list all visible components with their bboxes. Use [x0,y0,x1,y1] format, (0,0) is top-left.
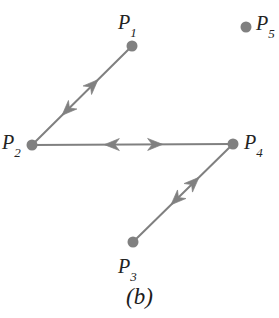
node-label-p4: P4 [244,132,263,156]
node-label-p5: P5 [256,13,275,37]
node-label-base: P [118,255,130,277]
node-p1[interactable] [127,41,138,52]
edges-layer [32,46,233,242]
node-label-base: P [244,131,256,153]
edge-P2-P1 [32,46,132,145]
node-p3[interactable] [128,237,139,248]
nodes-layer [27,22,252,248]
node-p2[interactable] [27,140,38,151]
node-label-subscript: 2 [14,145,21,160]
node-p5[interactable] [241,22,252,33]
node-p4[interactable] [228,139,239,150]
figure-caption: (b) [0,285,279,308]
node-label-base: P [2,131,14,153]
node-label-base: P [118,11,130,33]
edge-P3-P4 [133,144,233,242]
node-label-p3: P3 [118,256,137,280]
node-label-p1: P1 [118,12,137,36]
graph-canvas [0,0,279,318]
node-label-p2: P2 [2,132,21,156]
node-label-subscript: 1 [130,25,137,40]
arrowheads-layer [62,80,199,205]
node-label-subscript: 3 [130,269,137,284]
node-label-base: P [256,12,268,34]
edge-P2-P4 [32,144,233,145]
node-label-subscript: 5 [268,26,275,41]
figure-container: P1P2P3P4P5 (b) [0,0,279,318]
node-label-subscript: 4 [256,145,263,160]
